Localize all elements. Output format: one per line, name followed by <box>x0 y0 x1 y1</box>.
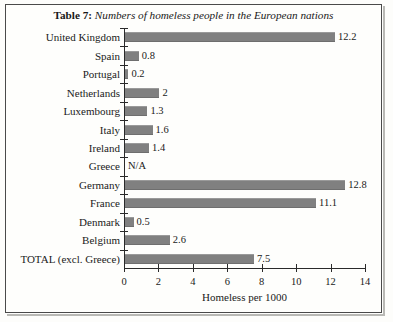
bar-value-label: 1.4 <box>152 142 165 154</box>
category-label: Denmark <box>79 216 120 228</box>
bar-value-label: 2 <box>162 87 167 99</box>
category-label: France <box>90 197 120 209</box>
bar-value-label: 12.8 <box>348 179 366 191</box>
bar <box>125 254 254 264</box>
category-label: Italy <box>100 124 120 136</box>
x-axis-tick <box>193 264 194 272</box>
bar <box>125 51 139 61</box>
x-axis-tick-label: 6 <box>212 276 242 288</box>
bar-value-label: 7.5 <box>257 253 270 265</box>
category-label: TOTAL (excl. Greece) <box>20 253 120 265</box>
y-axis-tick <box>120 194 128 195</box>
category-label: United Kingdom <box>46 31 120 43</box>
bar-value-label: N/A <box>128 160 146 172</box>
y-axis-tick <box>120 250 128 251</box>
x-axis-tick <box>296 264 297 272</box>
y-axis-tick <box>120 102 128 103</box>
x-axis-tick-label: 2 <box>143 276 173 288</box>
y-axis-tick <box>120 46 128 47</box>
y-axis-tick <box>120 120 128 121</box>
chart-page: Table 7: Numbers of homeless people in t… <box>0 0 393 322</box>
x-axis-tick <box>331 264 332 272</box>
y-axis-tick <box>120 83 128 84</box>
category-label: Ireland <box>89 142 120 154</box>
bar <box>125 106 147 116</box>
x-axis-tick-label: 8 <box>247 276 277 288</box>
bar <box>125 88 159 98</box>
y-axis-tick <box>120 157 128 158</box>
x-axis-tick <box>262 264 263 272</box>
category-label: Greece <box>89 160 120 172</box>
category-label: Luxembourg <box>63 105 120 117</box>
bar <box>125 32 335 42</box>
x-axis-tick-label: 10 <box>281 276 311 288</box>
bar <box>125 125 153 135</box>
bar-value-label: 2.6 <box>173 234 186 246</box>
x-axis-title: Homeless per 1000 <box>124 291 365 303</box>
x-axis-tick <box>124 264 125 272</box>
y-axis-tick <box>120 231 128 232</box>
category-label: Belgium <box>82 234 120 246</box>
bar <box>125 217 134 227</box>
bar-value-label: 1.6 <box>156 124 169 136</box>
x-axis-line <box>124 268 365 269</box>
x-axis-tick <box>158 264 159 272</box>
x-axis-tick <box>365 264 366 272</box>
bar-value-label: 0.5 <box>137 216 150 228</box>
bar <box>125 235 170 245</box>
y-axis-tick <box>120 139 128 140</box>
x-axis-tick-label: 0 <box>109 276 139 288</box>
y-axis-tick <box>120 176 128 177</box>
category-label: Netherlands <box>67 87 120 99</box>
bar <box>125 198 316 208</box>
y-axis-tick <box>120 28 128 29</box>
bar-value-label: 0.2 <box>131 68 144 80</box>
bar <box>125 143 149 153</box>
x-axis-tick-label: 4 <box>178 276 208 288</box>
category-label: Germany <box>79 179 120 191</box>
x-axis-tick-label: 12 <box>316 276 346 288</box>
y-axis-tick <box>120 65 128 66</box>
bar <box>125 69 128 79</box>
bar-value-label: 12.2 <box>338 31 356 43</box>
category-label: Portugal <box>83 68 120 80</box>
bar-value-label: 0.8 <box>142 50 155 62</box>
category-label: Spain <box>95 50 120 62</box>
y-axis-tick <box>120 213 128 214</box>
x-axis-tick <box>227 264 228 272</box>
bar <box>125 180 345 190</box>
bar-chart-plot: United Kingdom12.2Spain0.8Portugal0.2Net… <box>0 0 393 322</box>
bar-value-label: 1.3 <box>150 105 163 117</box>
x-axis-tick-label: 14 <box>350 276 380 288</box>
bar-value-label: 11.1 <box>319 197 337 209</box>
